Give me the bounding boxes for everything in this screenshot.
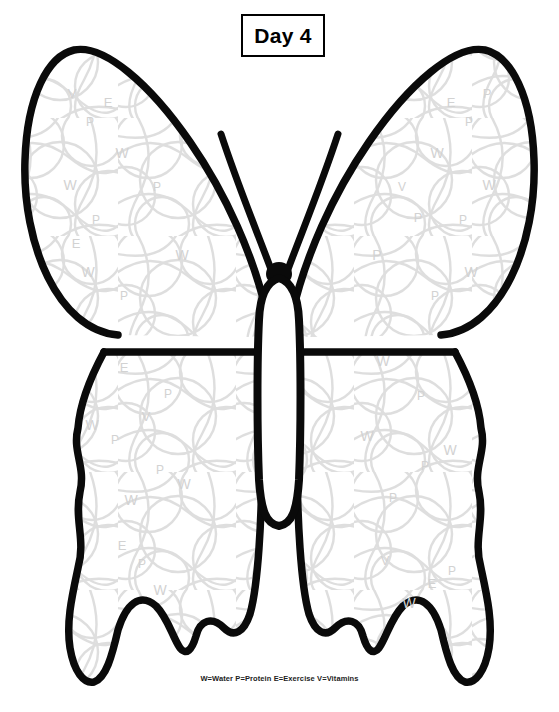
wing-letter-p: P [153,180,161,194]
legend-text: W=Water P=Protein E=Exercise V=Vitamins [200,674,358,683]
wing-letter-w: W [464,264,478,280]
wing-letter-v: V [142,409,151,424]
wing-letter-p: P [372,247,381,263]
wing-letter-p: P [421,459,429,473]
wing-letter-p: P [431,289,439,303]
wing-letter-w: W [81,264,95,280]
wing-letter-p: P [465,115,473,129]
wing-letter-w: W [482,177,496,193]
wing-letter-w: W [85,417,99,433]
wing-letter-p: P [92,213,100,227]
wing-letter-p: P [448,564,456,578]
wing-letter-w: W [402,595,416,611]
wing-letter-v: V [68,86,77,101]
wing-letter-w: W [115,145,129,161]
wing-letter-p: P [156,463,164,477]
day-label-box: Day 4 [241,14,325,57]
wing-letter-p: P [417,389,425,403]
butterfly-illustration: VEPWWPPEWWPPEPWWVPPPWPEPWVPPWWEPWWPWWPPV… [0,0,559,712]
wing-letter-p: P [459,213,467,227]
wing-letter-p: P [414,210,423,225]
wing-letter-e: E [104,95,113,110]
wing-letter-w: W [376,353,390,369]
wing-letter-e: E [120,360,129,375]
wing-letter-w: W [430,145,444,161]
wing-letter-e: E [118,538,127,553]
wing-letter-w: W [153,582,167,598]
wing-letter-w: W [63,177,77,193]
wing-letter-e: E [447,95,456,110]
wing-letter-p: P [389,491,397,505]
wing-letter-p: P [164,387,172,401]
page-title: Day 4 [254,25,312,46]
legend: W=Water P=Protein E=Exercise V=Vitamins [0,667,559,685]
wing-letter-p: P [138,557,146,571]
wing-letter-v: V [381,553,390,568]
wing-letter-p: P [111,433,119,447]
wing-letter-e: E [72,236,81,251]
wing-letter-p: P [86,115,94,129]
wing-letter-v: V [398,180,406,194]
wing-letter-w: W [124,492,138,508]
wing-letter-w: W [443,442,457,458]
worksheet-page: VEPWWPPEWWPPEPWWVPPPWPEPWVPPWWEPWWPWWPPV… [0,0,559,712]
wing-letter-w: W [177,476,191,492]
wing-letter-e: E [428,576,437,591]
wing-letter-p: P [120,289,128,303]
butterfly-body [258,262,301,526]
wing-letter-p: P [483,86,492,101]
wing-letter-w: W [175,247,189,263]
wing-letter-w: W [360,428,374,444]
